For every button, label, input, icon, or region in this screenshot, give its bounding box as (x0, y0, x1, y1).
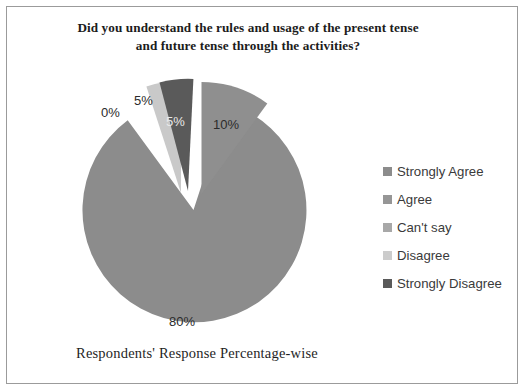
chart-legend: Strongly Agree Agree Can't say Disagree … (383, 163, 523, 303)
legend-item-label: Strongly Disagree (397, 276, 502, 291)
legend-item-strongly-agree[interactable]: Strongly Agree (383, 163, 523, 180)
chart-frame: Did you understand the rules and usage o… (6, 6, 518, 384)
legend-swatch-icon (383, 167, 392, 176)
chart-title: Did you understand the rules and usage o… (33, 19, 463, 54)
legend-item-cant-say[interactable]: Can't say (383, 219, 523, 236)
pie-chart-svg (21, 69, 361, 339)
legend-item-label: Agree (397, 192, 432, 207)
pie-chart-plot-area: 0% 5% 5% 10% 80% (21, 69, 361, 339)
legend-swatch-icon (383, 279, 392, 288)
legend-swatch-icon (383, 251, 392, 260)
chart-title-line-2: and future tense through the activities? (136, 38, 360, 53)
chart-caption: Respondents' Response Percentage-wise (37, 345, 357, 362)
legend-swatch-icon (383, 223, 392, 232)
legend-item-label: Disagree (397, 248, 450, 263)
legend-item-disagree[interactable]: Disagree (383, 247, 523, 264)
legend-item-label: Strongly Agree (397, 164, 484, 179)
legend-item-strongly-disagree[interactable]: Strongly Disagree (383, 275, 523, 292)
chart-title-line-1: Did you understand the rules and usage o… (77, 20, 418, 35)
legend-item-agree[interactable]: Agree (383, 191, 523, 208)
legend-item-label: Can't say (397, 220, 452, 235)
pie-slice-strongly-agree[interactable] (82, 103, 306, 322)
legend-swatch-icon (383, 195, 392, 204)
